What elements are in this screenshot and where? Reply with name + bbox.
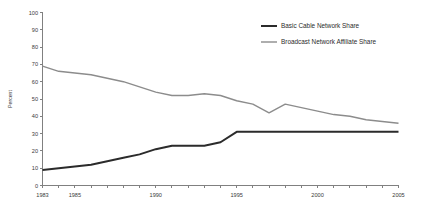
line-chart: 0102030405060708090100 19831985199019952… <box>0 0 421 220</box>
y-tick-label: 40 <box>32 113 38 119</box>
x-tick-label: 2000 <box>311 192 323 198</box>
y-tick-label: 100 <box>29 10 38 16</box>
series-line-0 <box>43 132 399 170</box>
y-tick-label: 0 <box>35 183 38 189</box>
y-tick-label: 20 <box>32 148 38 154</box>
y-axis-title: Percent <box>7 90 13 108</box>
x-ticks: 198319851990199520002005 <box>36 186 404 198</box>
x-tick-label: 1990 <box>150 192 162 198</box>
legend-label-1: Broadcast Network Affiliate Share <box>281 38 377 45</box>
chart-legend: Basic Cable Network ShareBroadcast Netwo… <box>261 22 377 45</box>
x-tick-label: 1995 <box>230 192 242 198</box>
y-tick-label: 60 <box>32 79 38 85</box>
series-lines <box>43 66 399 170</box>
y-tick-label: 50 <box>32 96 38 102</box>
x-axis: 198319851990199520002005 <box>36 186 404 198</box>
y-ticks: 0102030405060708090100 <box>29 10 43 189</box>
y-tick-label: 10 <box>32 165 38 171</box>
x-tick-label: 2005 <box>392 192 404 198</box>
series-line-1 <box>43 66 399 123</box>
x-tick-label: 1985 <box>69 192 81 198</box>
chart-canvas: 0102030405060708090100 19831985199019952… <box>0 0 421 220</box>
y-tick-label: 80 <box>32 44 38 50</box>
x-tick-label: 1983 <box>36 192 48 198</box>
y-axis: 0102030405060708090100 <box>29 10 43 189</box>
y-tick-label: 90 <box>32 27 38 33</box>
y-tick-label: 30 <box>32 131 38 137</box>
y-tick-label: 70 <box>32 61 38 67</box>
legend-label-0: Basic Cable Network Share <box>281 22 360 29</box>
